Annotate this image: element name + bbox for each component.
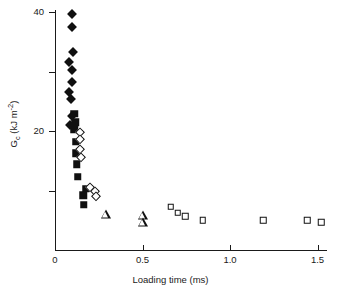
data-point-open-square	[318, 219, 325, 226]
data-point-open-triangle	[101, 209, 111, 218]
data-point-filled-square	[71, 110, 79, 118]
x-axis-tick-label: 0.5	[126, 255, 160, 265]
x-axis-title: Loading time (ms)	[0, 274, 341, 285]
x-axis-tick-label: 1.5	[301, 255, 335, 265]
data-point-open-square	[200, 217, 207, 224]
plot-area	[55, 10, 327, 250]
y-axis-title: Gc (kJ m-2)	[6, 64, 22, 184]
data-point-open-square	[167, 203, 174, 210]
data-point-open-triangle	[138, 217, 148, 226]
data-point-filled-square	[73, 161, 81, 169]
x-axis-line	[55, 250, 327, 251]
x-axis-tick-label: 0	[38, 255, 72, 265]
data-point-open-square	[260, 217, 267, 224]
y-axis-title-unit-close: )	[8, 101, 19, 104]
data-point-filled-square	[79, 192, 87, 200]
y-axis-title-superscript: -2	[6, 104, 15, 111]
y-axis-title-unit-open: (kJ m	[8, 110, 19, 136]
data-point-filled-square	[74, 173, 82, 181]
y-axis-title-subscript: c	[13, 136, 22, 140]
data-point-filled-square	[80, 201, 88, 209]
y-axis-tick-label: 40	[18, 7, 44, 17]
y-axis-title-base: G	[8, 140, 19, 147]
data-point-open-square	[174, 209, 181, 216]
data-point-open-square	[182, 213, 189, 220]
data-point-open-square	[304, 217, 311, 224]
chart-figure: 4020 00.51.01.5 Loading time (ms) Gc (kJ…	[0, 0, 341, 293]
x-axis-tick-label: 1.0	[213, 255, 247, 265]
